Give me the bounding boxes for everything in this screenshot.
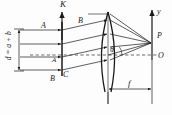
label-diffraction-angle: θ (110, 46, 114, 54)
figure-canvas: K A A B B C θ y P O f d = a + b (0, 0, 172, 115)
diffracted-ray-2 (62, 34, 107, 44)
diffracted-ray-1 (62, 20, 107, 30)
label-origin-O: O (158, 52, 164, 60)
converging-rays-group (110, 14, 151, 60)
diffracted-ray-4 (62, 60, 107, 70)
ray-diagram-svg (0, 0, 172, 115)
lens-left-surface (102, 12, 108, 92)
convex-lens (102, 12, 115, 104)
label-normal-K: K (60, 0, 66, 9)
label-slit-A-top: A (41, 22, 46, 30)
label-slit-B-bottom: B (50, 75, 55, 83)
diffracted-ray-3 (62, 47, 107, 57)
label-focal-length: f (128, 79, 131, 88)
incident-rays-group (20, 30, 61, 70)
label-slit-B-top: B (78, 17, 83, 25)
period-dimension-bracket (14, 29, 24, 71)
label-grating-period: d = a + b (5, 31, 13, 60)
label-focus-P: P (157, 32, 162, 40)
converging-ray-2 (110, 20, 151, 43)
label-axis-y: y (157, 8, 161, 16)
diffracted-rays-group (62, 20, 107, 70)
converging-ray-5 (110, 43, 151, 60)
label-slit-A-mid: A (52, 57, 56, 64)
theta-arc-path (119, 47, 122, 55)
label-slit-C: C (63, 71, 68, 79)
